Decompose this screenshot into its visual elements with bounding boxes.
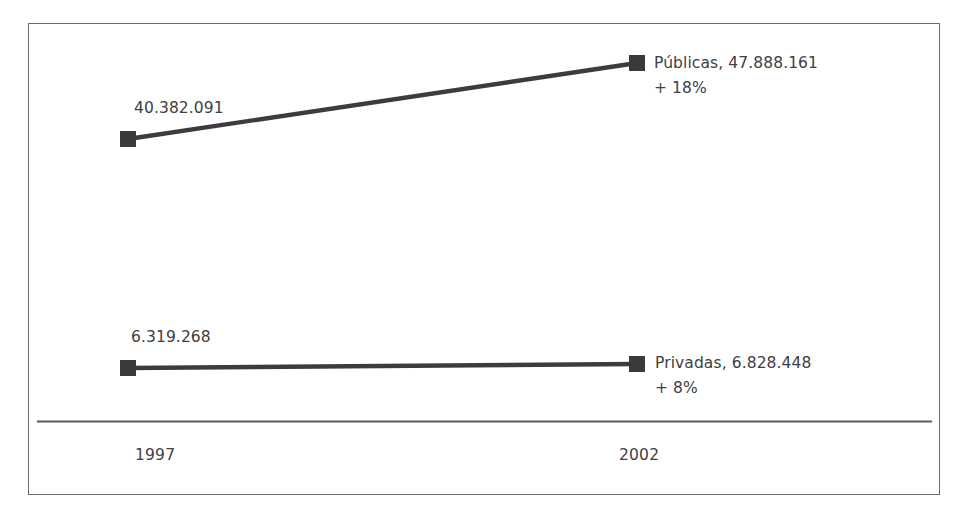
data-label-publicas-1997: 40.382.091 — [134, 97, 224, 119]
callout-privadas-label: Privadas, 6.828.448 — [655, 352, 811, 374]
x-tick-label-2002: 2002 — [619, 446, 659, 464]
data-label-privadas-1997: 6.319.268 — [131, 326, 211, 348]
callout-privadas: Privadas, 6.828.448 + 8% — [655, 352, 811, 399]
callout-publicas: Públicas, 47.888.161 + 18% — [654, 52, 818, 99]
x-tick-label-1997: 1997 — [135, 446, 175, 464]
callout-publicas-label: Públicas, 47.888.161 — [654, 52, 818, 74]
callout-privadas-growth: + 8% — [655, 377, 811, 399]
callout-publicas-growth: + 18% — [654, 77, 818, 99]
chart-container: 40.382.091 6.319.268 Públicas, 47.888.16… — [0, 0, 965, 514]
